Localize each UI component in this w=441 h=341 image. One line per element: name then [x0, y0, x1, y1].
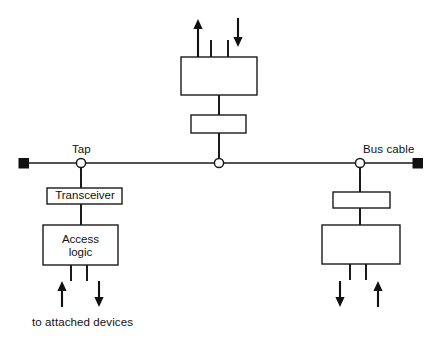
left-terminator [19, 159, 29, 169]
transceiver-box-right [333, 192, 390, 208]
tap-left [76, 158, 85, 167]
transceiver-box-top [191, 115, 246, 133]
right-terminator [413, 159, 423, 169]
label-tap: Tap [72, 143, 91, 155]
label-attached-devices: to attached devices [32, 316, 133, 328]
access-logic-box-right [322, 225, 400, 264]
arrow-up-top-station [193, 19, 202, 57]
label-access-logic: Access logic [43, 233, 118, 259]
diagram-canvas: Tap Bus cable Transceiver Access logic t… [0, 0, 441, 341]
station-right [322, 158, 400, 307]
label-transceiver: Transceiver [48, 189, 122, 202]
label-access-logic-line1: Access [62, 233, 99, 245]
arrow-down-right-station [335, 281, 344, 307]
bus-topology-diagram [0, 0, 441, 341]
access-logic-box-top [181, 57, 257, 95]
arrow-up-left-station [57, 281, 66, 307]
tap-right [355, 158, 364, 167]
arrow-up-right-station [373, 281, 382, 307]
tap-center [214, 158, 223, 167]
label-bus-cable: Bus cable [363, 143, 414, 155]
station-top [181, 18, 257, 168]
label-access-logic-line2: logic [69, 246, 93, 258]
arrow-down-left-station [94, 281, 103, 307]
arrow-down-top-station [233, 18, 242, 47]
